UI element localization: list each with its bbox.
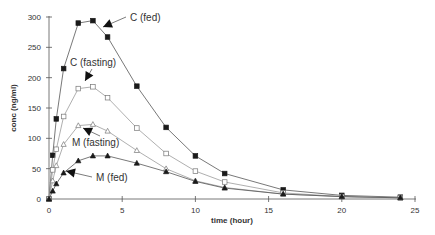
x-tick-label: 10 — [191, 206, 200, 215]
data-point-square — [50, 153, 55, 158]
x-tick-label: 25 — [411, 206, 420, 215]
x-axis-title: time (hour) — [211, 216, 253, 225]
data-point-square — [91, 84, 96, 89]
y-axis-title: conc (ng/ml) — [9, 84, 18, 132]
x-tick-label: 5 — [120, 206, 125, 215]
data-point-square — [135, 84, 140, 89]
y-tick-label: 0 — [37, 195, 42, 204]
data-point-square — [50, 168, 55, 173]
y-tick-label: 300 — [28, 13, 42, 22]
pk-line-chart: 0501001502002503000510152025 C (fed)C (f… — [0, 0, 435, 235]
data-point-square — [164, 125, 169, 130]
series-label: C (fasting) — [70, 57, 116, 68]
data-point-square — [91, 18, 96, 23]
annotation: C (fed) — [103, 12, 161, 28]
data-point-square — [222, 180, 227, 185]
data-point-triangle — [54, 163, 59, 168]
axes: 0501001502002503000510152025 — [28, 13, 420, 215]
series-label: M (fasting) — [72, 137, 119, 148]
data-point-square — [164, 151, 169, 156]
data-point-square — [54, 147, 59, 152]
y-tick-label: 100 — [28, 134, 42, 143]
data-point-square — [135, 126, 140, 131]
data-point-square — [76, 86, 81, 91]
y-tick-label: 150 — [28, 104, 42, 113]
annotation: C (fasting) — [70, 57, 116, 81]
data-point-square — [54, 117, 59, 122]
annotation: M (fasting) — [72, 128, 119, 148]
data-point-square — [61, 114, 66, 119]
data-point-triangle — [134, 148, 139, 153]
y-tick-label: 250 — [28, 43, 42, 52]
data-point-square — [105, 95, 110, 100]
data-point-square — [61, 66, 66, 71]
arrowhead-icon — [85, 71, 93, 81]
data-point-square — [193, 154, 198, 159]
data-point-square — [76, 21, 81, 26]
x-tick-label: 15 — [264, 206, 273, 215]
x-tick-label: 0 — [47, 206, 52, 215]
data-point-square — [222, 171, 227, 176]
y-tick-label: 200 — [28, 74, 42, 83]
data-point-triangle — [90, 122, 95, 127]
annotation: M (fed) — [66, 169, 128, 183]
data-point-square — [193, 169, 198, 174]
series-label: M (fed) — [96, 172, 128, 183]
data-point-triangle — [61, 170, 66, 175]
data-point-square — [105, 35, 110, 40]
series-label: C (fed) — [130, 12, 161, 23]
x-tick-label: 20 — [337, 206, 346, 215]
y-tick-label: 50 — [32, 165, 41, 174]
